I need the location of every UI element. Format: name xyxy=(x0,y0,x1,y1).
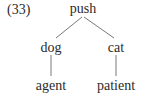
edge-push-cat xyxy=(84,17,114,38)
edge-push-dog xyxy=(56,17,82,38)
tree-node-cat: cat xyxy=(108,41,124,55)
tree-node-patient: patient xyxy=(97,79,135,93)
tree-node-agent: agent xyxy=(36,79,66,93)
example-number: (33) xyxy=(7,3,30,17)
tree-node-dog: dog xyxy=(41,41,62,55)
tree-node-root: push xyxy=(70,2,96,16)
